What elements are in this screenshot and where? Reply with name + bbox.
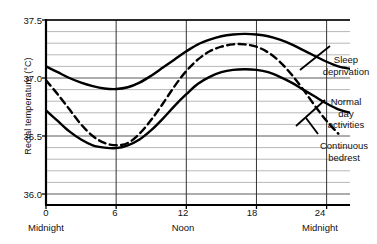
x-tick-label-6: 6	[95, 207, 135, 218]
gridlines-minor	[46, 32, 350, 183]
annotation-normal-day-activities: Normal day activities	[316, 96, 376, 131]
x-tick-label-12: 12	[163, 207, 203, 218]
x-caption-noon: Noon	[143, 222, 223, 233]
y-tick-label-3: 36.0	[4, 189, 42, 200]
annotation-sleep-deprivation: Sleep deprivation	[316, 54, 376, 77]
axis-ticks	[42, 20, 327, 209]
chart-figure: Rectal temperature (°C) 37.5 37.0 36.5 3…	[0, 0, 377, 244]
x-tick-label-0: 0	[26, 207, 66, 218]
axis-lines	[45, 19, 350, 205]
y-tick-label-2: 36.5	[4, 131, 42, 142]
x-caption-midnight-start: Midnight	[6, 222, 86, 233]
y-tick-label-1: 37.0	[4, 73, 42, 84]
series-lines	[46, 34, 350, 148]
x-caption-midnight-end: Midnight	[280, 222, 360, 233]
y-tick-label-0: 37.5	[4, 15, 42, 26]
series-line-normal-day-activities	[46, 44, 338, 145]
y-axis-title: Rectal temperature (°C)	[23, 31, 33, 181]
annotation-continuous-bedrest: Continuous bedrest	[311, 140, 377, 163]
x-tick-label-18: 18	[232, 207, 272, 218]
series-line-sleep-deprivation	[46, 34, 350, 89]
x-tick-label-24: 24	[300, 207, 340, 218]
